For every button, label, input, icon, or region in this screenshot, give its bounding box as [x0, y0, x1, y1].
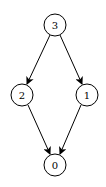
edge-3-to-1	[60, 35, 82, 84]
edge-2-to-0	[28, 105, 50, 154]
node-3-label: 3	[52, 20, 58, 31]
node-2: 2	[11, 84, 33, 106]
edge-1-to-0	[60, 105, 81, 154]
node-0-label: 0	[52, 160, 58, 171]
node-2-label: 2	[19, 90, 25, 101]
edge-3-to-2	[27, 35, 50, 84]
node-3: 3	[44, 14, 66, 36]
graph-canvas: 3 2 1 0	[0, 0, 106, 187]
node-1: 1	[76, 84, 98, 106]
node-1-label: 1	[84, 90, 90, 101]
node-0: 0	[44, 154, 66, 176]
